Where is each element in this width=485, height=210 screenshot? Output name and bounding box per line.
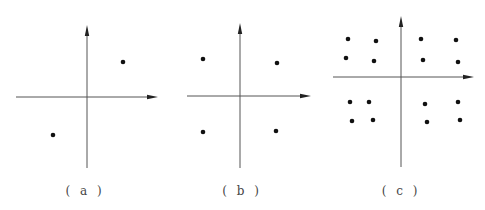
constellation-point [344,56,349,61]
panel-c [333,16,474,167]
constellation-point [454,38,459,43]
constellation-point [419,37,424,42]
constellation-point [458,118,463,123]
panel-b [187,23,311,168]
caption-b: ( b ) [212,184,272,198]
caption-c: ( c ) [371,184,431,198]
x-axis-arrow-icon [463,75,474,79]
y-axis-arrow-icon [399,16,403,27]
constellation-point [201,57,206,62]
constellation-point [421,58,426,63]
panel-a [16,25,158,168]
constellation-point [425,120,430,125]
constellation-point [346,37,351,42]
constellation-diagrams [0,0,485,210]
y-axis-arrow-icon [238,23,242,34]
constellation-point [371,118,376,123]
constellation-point [275,61,280,66]
constellation-point [372,59,377,64]
x-axis-arrow-icon [147,95,158,99]
constellation-point [348,100,353,105]
constellation-point [367,100,372,105]
constellation-point [374,39,379,44]
constellation-point [456,60,461,65]
constellation-point [423,102,428,107]
constellation-point [201,130,206,135]
x-axis-arrow-icon [300,94,311,98]
constellation-point [51,133,56,138]
constellation-point [121,60,126,65]
constellation-point [350,119,355,124]
y-axis-arrow-icon [85,25,89,36]
constellation-point [274,129,279,134]
constellation-figure: ( a ) ( b ) ( c ) [0,0,485,210]
constellation-point [456,100,461,105]
caption-a: ( a ) [55,184,115,198]
